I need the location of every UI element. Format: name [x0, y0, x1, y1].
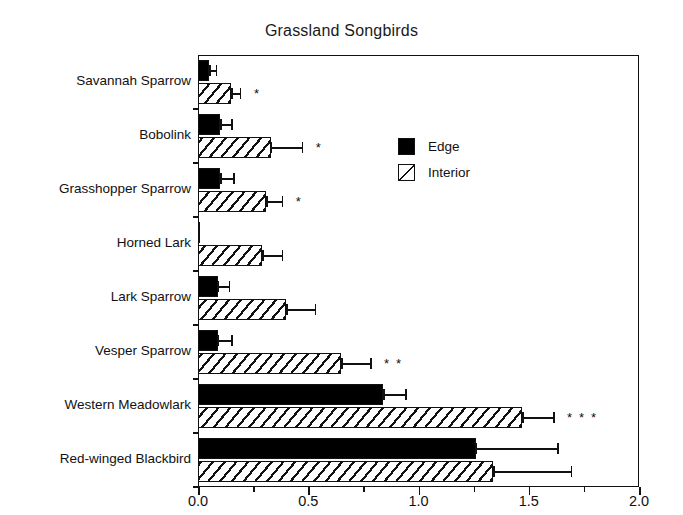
significance-marker: * [254, 87, 266, 100]
x-tick-minor [584, 487, 586, 492]
error-bar-cap [282, 196, 284, 207]
legend-label-edge: Edge [428, 139, 460, 154]
error-bar-cap [271, 142, 273, 153]
error-bar-cap [209, 65, 211, 76]
error-bar-cap [286, 304, 288, 315]
x-tick-label: 0.5 [298, 493, 318, 509]
chart-figure: Grassland Songbirds Savannah SparrowBobo… [0, 0, 683, 515]
x-tick-minor [253, 487, 255, 492]
error-bar-cap [557, 443, 559, 454]
category-label: Western Meadowlark [64, 397, 191, 412]
error-bar-cap [231, 335, 233, 346]
bar-group [198, 217, 639, 271]
error-bar [286, 309, 315, 311]
error-bar-cap [216, 65, 218, 76]
bar-group: ** [198, 325, 639, 379]
error-bar-cap [571, 466, 573, 477]
error-bar-cap [476, 443, 478, 454]
error-bar-cap [370, 358, 372, 369]
legend: Edge Interior [398, 138, 470, 190]
bar-edge [198, 222, 200, 243]
legend-item-interior: Interior [398, 164, 470, 181]
category-label: Red-winged Blackbird [60, 451, 191, 466]
error-bar [220, 178, 233, 180]
error-bar-cap [282, 250, 284, 261]
bar-interior [198, 299, 286, 320]
chart-title: Grassland Songbirds [0, 22, 683, 40]
error-bar-cap [220, 119, 222, 130]
error-bar [220, 124, 231, 126]
x-tick-minor [363, 487, 365, 492]
bar-edge [198, 438, 476, 459]
bar-group [198, 271, 639, 325]
bar-interior [198, 83, 231, 104]
category-label: Vesper Sparrow [95, 343, 191, 358]
error-bar [383, 394, 405, 396]
error-bar-cap [218, 281, 220, 292]
x-tick-minor [474, 487, 476, 492]
bar-edge [198, 168, 220, 189]
error-bar-cap [220, 173, 222, 184]
error-bar [522, 417, 553, 419]
x-tick-label: 1.0 [408, 493, 428, 509]
bar-edge [198, 60, 209, 81]
bar-edge [198, 114, 220, 135]
bar-edge [198, 276, 218, 297]
bar-interior [198, 245, 262, 266]
significance-marker: * [296, 195, 308, 208]
error-bar-cap [493, 466, 495, 477]
error-bar [341, 363, 370, 365]
bar-interior [198, 461, 493, 482]
x-axis-tick-labels: 0.00.51.01.52.0 [0, 493, 683, 515]
error-bar-cap [231, 88, 233, 99]
category-label: Horned Lark [117, 235, 191, 250]
error-bar-cap [383, 389, 385, 400]
error-bar-cap [266, 196, 268, 207]
bar-group: * [198, 55, 639, 109]
error-bar [218, 286, 229, 288]
error-bar [476, 448, 558, 450]
x-tick-label: 2.0 [629, 493, 649, 509]
error-bar [493, 471, 570, 473]
error-bar-cap [240, 88, 242, 99]
legend-label-interior: Interior [428, 165, 470, 180]
x-tick-label: 0.0 [188, 493, 208, 509]
error-bar-cap [302, 142, 304, 153]
bar-interior [198, 191, 266, 212]
category-label: Lark Sparrow [111, 289, 191, 304]
significance-marker: * [316, 141, 328, 154]
error-bar [218, 340, 231, 342]
error-bar-cap [522, 412, 524, 423]
error-bar-cap [233, 173, 235, 184]
bar-edge [198, 330, 218, 351]
legend-item-edge: Edge [398, 138, 470, 155]
bar-edge [198, 384, 383, 405]
error-bar [266, 201, 281, 203]
bar-interior [198, 137, 271, 158]
significance-marker: *** [567, 411, 603, 424]
category-axis-labels: Savannah SparrowBobolinkGrasshopper Spar… [0, 55, 191, 487]
error-bar-cap [262, 250, 264, 261]
legend-swatch-interior [398, 164, 415, 181]
bar-group [198, 433, 639, 487]
category-label: Savannah Sparrow [76, 73, 191, 88]
bar-interior [198, 407, 522, 428]
x-tick-label: 1.5 [519, 493, 539, 509]
error-bar-cap [229, 281, 231, 292]
bars-area: ******** [198, 55, 639, 487]
error-bar-cap [341, 358, 343, 369]
error-bar [262, 255, 282, 257]
category-label: Bobolink [139, 127, 191, 142]
category-label: Grasshopper Sparrow [59, 181, 191, 196]
error-bar-cap [231, 119, 233, 130]
bar-interior [198, 353, 341, 374]
significance-marker: ** [384, 357, 408, 370]
error-bar-cap [405, 389, 407, 400]
error-bar [271, 147, 302, 149]
error-bar-cap [218, 335, 220, 346]
legend-swatch-edge [398, 138, 415, 155]
error-bar-cap [553, 412, 555, 423]
bar-group: *** [198, 379, 639, 433]
error-bar-cap [315, 304, 317, 315]
